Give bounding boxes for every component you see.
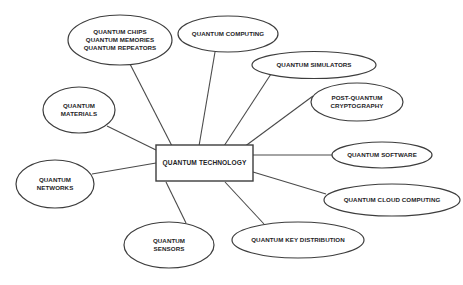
connector-post-quantum-cryptography [244,96,313,147]
node-quantum-software[interactable]: QUANTUM SOFTWARE [332,142,432,168]
node-quantum-sensors[interactable]: QUANTUMSENSORS [124,222,214,268]
node-quantum-key-distribution[interactable]: QUANTUM KEY DISTRIBUTION [232,222,364,258]
node-label-line: QUANTUM CHIPS [93,28,146,35]
node-quantum-chips-memories-repeators[interactable]: QUANTUM CHIPSQUANTUM MEMORIESQUANTUM REP… [68,15,172,65]
node-label-post-quantum-cryptography: POST-QUANTUMCRYPTOGRAPHY [331,94,385,109]
node-label-line: QUANTUM KEY DISTRIBUTION [251,236,345,243]
node-quantum-simulators[interactable]: QUANTUM SIMULATORS [252,52,376,79]
node-label-line: QUANTUM MEMORIES [86,36,154,43]
node-label-quantum-sensors: QUANTUMSENSORS [153,237,185,252]
node-quantum-materials[interactable]: QUANTUMMATERIALS [43,87,115,133]
node-label-line: QUANTUM REPEATORS [84,44,157,51]
center-node-label: QUANTUM TECHNOLOGY [163,159,247,167]
connector-quantum-materials [107,126,156,150]
connector-quantum-chips-memories-repeators [130,64,172,146]
node-label-quantum-networks: QUANTUMNETWORKS [37,176,74,191]
node-label-quantum-computing: QUANTUM COMPUTING [192,30,265,37]
node-label-line: QUANTUM [153,237,185,244]
node-label-line: QUANTUM SIMULATORS [276,61,351,68]
node-label-line: SENSORS [154,245,185,252]
node-label-quantum-cloud-computing: QUANTUM CLOUD COMPUTING [344,196,441,203]
center-node-group: QUANTUM TECHNOLOGY [156,145,253,181]
node-label-line: MATERIALS [61,110,97,117]
node-label-line: POST-QUANTUM [331,94,382,101]
node-label-line: QUANTUM COMPUTING [192,30,265,37]
quantum-technology-mind-map: QUANTUM CHIPSQUANTUM MEMORIESQUANTUM REP… [0,0,463,285]
nodes-group: QUANTUM CHIPSQUANTUM MEMORIESQUANTUM REP… [16,15,460,268]
node-label-line: QUANTUM CLOUD COMPUTING [344,196,441,203]
node-label-line: QUANTUM SOFTWARE [347,151,417,158]
node-label-line: QUANTUM [63,102,95,109]
node-label-quantum-simulators: QUANTUM SIMULATORS [276,61,351,68]
node-quantum-networks[interactable]: QUANTUMNETWORKS [16,160,94,208]
node-quantum-computing[interactable]: QUANTUM COMPUTING [178,16,278,52]
connector-quantum-computing [199,52,215,146]
connector-quantum-networks [92,163,156,174]
node-label-line: QUANTUM [39,176,71,183]
node-quantum-cloud-computing[interactable]: QUANTUM CLOUD COMPUTING [324,184,460,216]
mindmap-canvas: QUANTUM CHIPSQUANTUM MEMORIESQUANTUM REP… [0,0,463,285]
connector-quantum-simulators [224,74,271,146]
node-label-line: NETWORKS [37,184,74,191]
node-label-quantum-software: QUANTUM SOFTWARE [347,151,417,158]
connector-quantum-cloud-computing [253,172,326,194]
node-label-quantum-key-distribution: QUANTUM KEY DISTRIBUTION [251,236,345,243]
node-label-line: CRYPTOGRAPHY [331,102,385,109]
connector-quantum-key-distribution [225,182,264,224]
connector-quantum-sensors [166,182,186,223]
node-post-quantum-cryptography[interactable]: POST-QUANTUMCRYPTOGRAPHY [311,83,403,121]
node-label-quantum-chips-memories-repeators: QUANTUM CHIPSQUANTUM MEMORIESQUANTUM REP… [84,28,157,51]
node-label-quantum-materials: QUANTUMMATERIALS [61,102,97,117]
